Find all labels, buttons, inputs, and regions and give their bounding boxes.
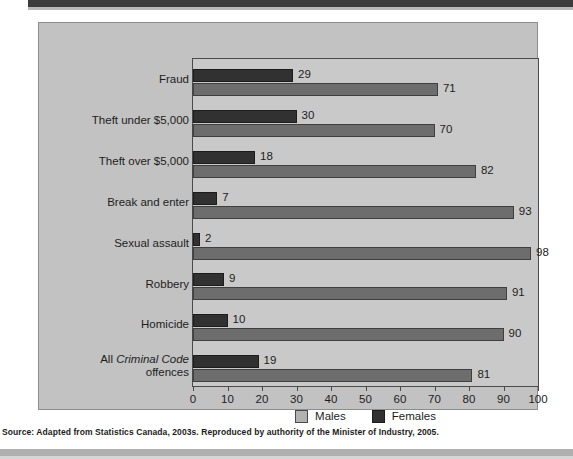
x-axis-tick-label: 90 xyxy=(497,393,510,405)
x-axis-tick-label: 70 xyxy=(428,393,441,405)
bar-males xyxy=(193,328,504,341)
figure-root: FraudTheft under $5,000Theft over $5,000… xyxy=(0,0,573,459)
value-label-females: 30 xyxy=(302,109,315,122)
legend-swatch-males-icon xyxy=(295,410,308,423)
x-axis-tick-label: 100 xyxy=(528,393,547,405)
bar-males xyxy=(193,287,507,300)
bar-males xyxy=(193,369,472,382)
x-axis-tick-label: 60 xyxy=(394,393,407,405)
value-label-females: 19 xyxy=(264,354,277,367)
value-label-females: 2 xyxy=(205,232,211,245)
y-axis-label: Theft under $5,000 xyxy=(79,114,189,127)
bar-males xyxy=(193,83,438,96)
figure-panel: FraudTheft under $5,000Theft over $5,000… xyxy=(38,22,538,410)
bar-females xyxy=(193,355,259,368)
y-axis-label: Homicide xyxy=(79,318,189,331)
x-axis-tick xyxy=(469,386,470,391)
y-axis-label: Theft over $5,000 xyxy=(79,155,189,168)
x-axis-tick xyxy=(400,386,401,391)
x-axis-tick xyxy=(262,386,263,391)
bar-females xyxy=(193,69,293,82)
x-axis: 0102030405060708090100 xyxy=(193,386,539,387)
bar-group: 1090 xyxy=(193,304,538,345)
value-label-females: 29 xyxy=(298,68,311,81)
x-axis-tick-label: 50 xyxy=(359,393,372,405)
bar-females xyxy=(193,110,297,123)
bar-group: 1981 xyxy=(193,345,538,386)
x-axis-tick xyxy=(504,386,505,391)
bar-males xyxy=(193,124,435,137)
value-label-males: 82 xyxy=(481,164,494,177)
bar-females xyxy=(193,314,228,327)
value-label-males: 81 xyxy=(477,368,490,381)
x-axis-tick xyxy=(228,386,229,391)
x-axis-tick-label: 20 xyxy=(256,393,269,405)
x-axis-tick xyxy=(538,386,539,391)
value-label-males: 98 xyxy=(536,246,549,259)
x-axis-tick xyxy=(366,386,367,391)
bar-females xyxy=(193,273,224,286)
bar-males xyxy=(193,165,476,178)
value-label-males: 90 xyxy=(509,327,522,340)
legend-label-females: Females xyxy=(392,410,436,422)
bar-group: 2971 xyxy=(193,59,538,100)
x-axis-tick-label: 40 xyxy=(325,393,338,405)
value-label-females: 9 xyxy=(229,272,235,285)
bar-males xyxy=(193,247,531,260)
x-axis-tick-label: 10 xyxy=(221,393,234,405)
value-label-males: 71 xyxy=(443,82,456,95)
bar-group: 298 xyxy=(193,223,538,264)
x-axis-tick xyxy=(331,386,332,391)
value-label-females: 18 xyxy=(260,150,273,163)
value-label-males: 93 xyxy=(519,205,532,218)
x-axis-tick-label: 80 xyxy=(463,393,476,405)
value-label-males: 91 xyxy=(512,286,525,299)
x-axis-tick-label: 0 xyxy=(190,393,196,405)
bottom-decorative-band xyxy=(0,449,573,456)
value-label-females: 7 xyxy=(222,191,228,204)
y-axis-label: Robbery xyxy=(79,278,189,291)
source-note: Source: Adapted from Statistics Canada, … xyxy=(2,427,439,437)
x-axis-tick-label: 30 xyxy=(290,393,303,405)
bar-females xyxy=(193,233,200,246)
legend-label-males: Males xyxy=(315,410,346,422)
bar-females xyxy=(193,192,217,205)
legend-swatch-females-icon xyxy=(372,410,385,423)
x-axis-tick xyxy=(435,386,436,391)
value-label-females: 10 xyxy=(233,313,246,326)
legend-item-females: Females xyxy=(372,410,436,423)
legend-item-males: Males xyxy=(295,410,346,423)
value-label-males: 70 xyxy=(440,123,453,136)
top-decorative-band xyxy=(28,0,573,7)
plot-area: 29713070188279329899110901981 xyxy=(193,59,538,386)
y-axis-label: Sexual assault xyxy=(79,237,189,250)
x-axis-tick xyxy=(193,386,194,391)
bar-group: 1882 xyxy=(193,141,538,182)
top-band-shadow xyxy=(28,7,573,10)
y-axis-category-labels: FraudTheft under $5,000Theft over $5,000… xyxy=(79,58,189,387)
bar-group: 3070 xyxy=(193,100,538,141)
bar-females xyxy=(193,151,255,164)
bar-group: 793 xyxy=(193,182,538,223)
x-axis-tick xyxy=(297,386,298,391)
y-axis-label: Break and enter xyxy=(79,196,189,209)
y-axis-label: All Criminal Codeoffences xyxy=(79,353,189,378)
bar-males xyxy=(193,206,514,219)
y-axis-label: Fraud xyxy=(79,73,189,86)
bar-group: 991 xyxy=(193,263,538,304)
chart-legend: Males Females xyxy=(192,406,539,426)
